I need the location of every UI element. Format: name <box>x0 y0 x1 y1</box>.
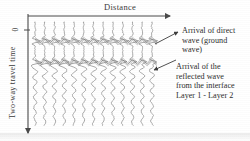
radargram-figure: Distance Two-way travel time 0 Arrival o… <box>0 0 250 141</box>
wiggle-trace <box>41 22 51 125</box>
event-band-group <box>35 37 157 66</box>
wiggle-trace <box>120 22 129 125</box>
callout-direct-line-1: Arrival of direct <box>182 26 235 36</box>
callout-reflected-line-3: from the interface <box>176 81 235 91</box>
wiggle-trace <box>149 22 158 125</box>
wiggle-trace <box>99 22 109 125</box>
scan-smudge <box>0 133 250 141</box>
y-axis-title: Two-way travel time <box>8 44 17 122</box>
leader-arrow-group <box>154 32 178 70</box>
leader-arrow-reflected-wave <box>154 60 176 70</box>
wiggle-trace <box>110 22 119 125</box>
wiggle-trace-group <box>31 22 157 125</box>
callout-reflected-line-1: Arrival of the <box>176 62 235 72</box>
leader-arrow-direct-wave <box>155 32 178 44</box>
wiggle-trace <box>129 22 138 125</box>
callout-direct-line-3: wave) <box>182 45 235 55</box>
wiggle-trace <box>31 22 42 125</box>
wiggle-trace <box>139 22 148 125</box>
callout-reflected-line-4: Layer 1 - Layer 2 <box>176 91 235 101</box>
callout-direct-line-2: wave (ground <box>182 36 235 46</box>
x-axis-title: Distance <box>104 2 136 12</box>
callout-reflected-line-2: reflected wave <box>176 72 235 82</box>
callout-reflected-wave: Arrival of the reflected wave from the i… <box>176 62 235 100</box>
y-axis-zero-label: 0 <box>11 27 20 31</box>
callout-direct-wave: Arrival of direct wave (ground wave) <box>182 26 235 55</box>
